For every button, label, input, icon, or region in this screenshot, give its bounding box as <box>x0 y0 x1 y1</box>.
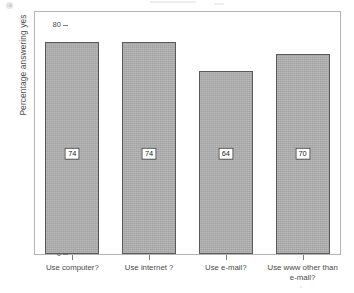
x-axis-tick <box>149 255 150 260</box>
x-axis-tick <box>226 255 227 260</box>
x-axis: Use computer?Use internet ?Use e-mail?Us… <box>34 255 341 293</box>
y-tick-mark <box>63 25 68 26</box>
bar-value-label: 64 <box>218 148 233 161</box>
x-axis-label: Use www other than e-mail? <box>258 263 348 282</box>
bar-chart-figure: Percentage answering yes 020406080 74746… <box>0 0 354 293</box>
bar-texture <box>200 72 252 253</box>
bar-value-label: 74 <box>65 148 80 161</box>
x-axis-tick <box>72 255 73 260</box>
x-axis-tick <box>303 255 304 260</box>
plot-area: 020406080 74746470 <box>34 11 341 254</box>
y-tick-label: 80 <box>53 20 61 30</box>
bar-value-label: 74 <box>142 148 157 161</box>
y-axis-title: Percentage answering yes <box>18 0 28 170</box>
bar <box>199 71 253 254</box>
bar-value-label: 70 <box>295 148 310 161</box>
